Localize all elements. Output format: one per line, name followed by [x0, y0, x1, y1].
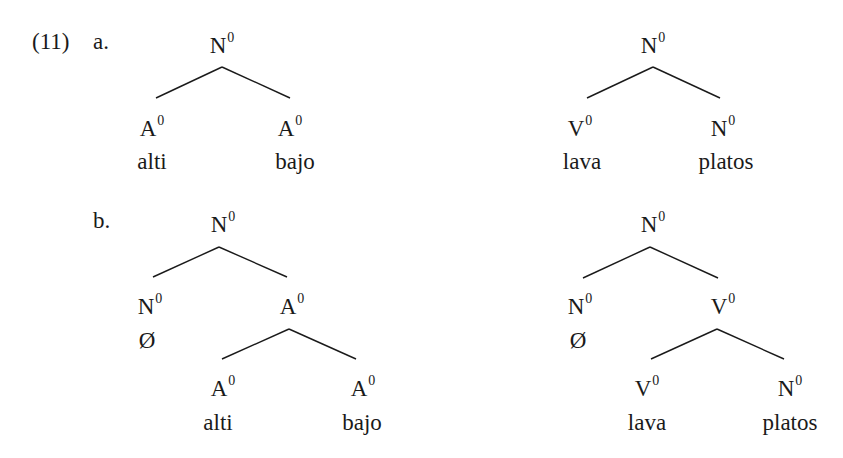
node-b-left-rl: A0 — [211, 376, 236, 400]
node-b-right-r: V0 — [711, 294, 736, 318]
branch-b-right-rl — [651, 329, 717, 359]
node-b-left-l: N0 — [138, 294, 163, 318]
word-b-right-null: Ø — [570, 329, 587, 352]
word-b-left-rl: alti — [203, 411, 232, 434]
word-b-left-null: Ø — [139, 329, 156, 352]
node-a-left-l: A0 — [140, 116, 165, 140]
node-a-right-l: V0 — [568, 116, 593, 140]
node-b-right-l: N0 — [568, 294, 593, 318]
node-b-right-root: N0 — [641, 212, 666, 236]
word-b-left-rr: bajo — [342, 411, 382, 434]
branch-b-right-l — [583, 247, 650, 278]
subpart-b-label: b. — [93, 209, 110, 232]
node-a-left-root: N0 — [210, 33, 235, 57]
word-a-right-r: platos — [699, 150, 754, 173]
word-a-left-r: bajo — [275, 150, 315, 173]
branch-a-right-l — [587, 67, 653, 98]
branch-b-right-r — [650, 247, 718, 278]
subpart-a-label: a. — [93, 30, 109, 53]
example-number: (11) — [32, 30, 69, 53]
node-a-left-r: A0 — [278, 116, 303, 140]
branch-a-left-l — [156, 67, 222, 98]
branch-b-left-r — [219, 247, 287, 277]
branch-b-left-rr — [289, 329, 356, 359]
word-b-right-rl: lava — [628, 411, 666, 434]
node-a-right-r: N0 — [711, 116, 736, 140]
branch-b-left-rl — [222, 329, 289, 359]
node-a-right-root: N0 — [641, 33, 666, 57]
node-b-right-rl: V0 — [635, 376, 660, 400]
node-b-left-rr: A0 — [351, 376, 376, 400]
branch-a-right-r — [653, 67, 720, 98]
word-b-right-rr: platos — [763, 411, 818, 434]
node-b-left-root: N0 — [211, 212, 236, 236]
word-a-right-l: lava — [563, 150, 601, 173]
branch-b-right-rr — [717, 329, 784, 359]
word-a-left-l: alti — [137, 150, 166, 173]
branch-b-left-l — [153, 247, 219, 277]
node-b-right-rr: N0 — [778, 376, 803, 400]
node-b-left-r: A0 — [280, 294, 305, 318]
branch-a-left-r — [222, 67, 290, 98]
tree-branches — [0, 0, 843, 458]
